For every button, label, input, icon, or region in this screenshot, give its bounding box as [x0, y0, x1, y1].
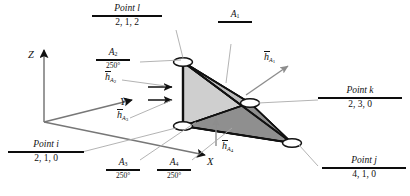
point-l-name: Point l	[92, 4, 162, 15]
callout-point-l: Point l 2, 1, 2	[92, 4, 162, 27]
vector-label-h-a1: hA1	[264, 52, 275, 64]
a3-value: 250°	[106, 171, 140, 180]
h-a4-subscript: A4	[227, 146, 233, 152]
point-i-name: Point i	[8, 140, 84, 151]
a1-rule	[218, 21, 252, 23]
vector-label-h-a2: hA2	[105, 72, 116, 84]
label-a4: A4 250°	[157, 158, 191, 179]
node-j	[283, 139, 302, 147]
leader-point-l	[176, 30, 183, 58]
leader-a1	[226, 44, 231, 83]
a2-symbol: A2	[96, 48, 130, 59]
node-l	[174, 58, 193, 66]
a4-symbol: A4	[157, 158, 191, 169]
leader-point-k	[258, 100, 318, 103]
node-k	[241, 99, 260, 107]
axis-label-x: X	[207, 157, 213, 168]
label-a1: A1	[218, 10, 252, 23]
a2-value: 250°	[96, 61, 130, 70]
a3-symbol: A3	[106, 158, 140, 169]
point-j-coords: 4, 1, 0	[322, 169, 406, 180]
label-a3: A3 250°	[106, 158, 140, 179]
leader-point-i	[82, 128, 176, 152]
axis-label-z: Z	[28, 50, 34, 61]
vector-label-h-a3: hA3	[117, 110, 128, 122]
leader-h-a3	[130, 100, 172, 118]
h-a1-subscript: A1	[269, 57, 275, 63]
arrow-h-a1	[246, 66, 288, 95]
label-a2: A2 250°	[96, 48, 130, 69]
point-k-coords: 2, 3, 0	[318, 99, 402, 110]
point-j-name: Point j	[322, 156, 406, 167]
axis-label-y: Y	[120, 97, 126, 108]
figure-canvas: Point l 2, 1, 2 Point k 2, 3, 0 Point j …	[0, 0, 410, 196]
callout-point-k: Point k 2, 3, 0	[318, 86, 402, 109]
vector-label-h-a4: hA4	[222, 141, 233, 153]
h-a2-subscript: A2	[110, 77, 116, 83]
point-i-coords: 2, 1, 0	[8, 153, 84, 164]
h-a3-subscript: A3	[122, 115, 128, 121]
callout-point-j: Point j 4, 1, 0	[322, 156, 406, 179]
point-l-coords: 2, 1, 2	[92, 17, 162, 28]
a4-value: 250°	[157, 171, 191, 180]
leader-point-j	[299, 145, 318, 166]
point-k-name: Point k	[318, 86, 402, 97]
a1-symbol: A1	[218, 10, 252, 21]
callout-point-i: Point i 2, 1, 0	[8, 140, 84, 163]
leader-a3	[140, 122, 196, 160]
leader-h-a2	[122, 80, 166, 86]
